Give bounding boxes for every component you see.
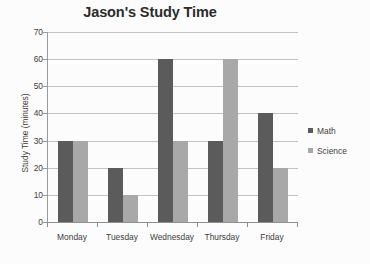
x-tick-mark — [297, 223, 298, 227]
bar-monday-science — [73, 141, 88, 222]
y-tick-label: 70 — [21, 28, 43, 36]
bar-group-container — [48, 32, 298, 222]
x-tick-label-tuesday: Tuesday — [97, 233, 147, 241]
y-tick-label: 10 — [21, 191, 43, 199]
bar-thursday-math — [208, 141, 223, 222]
legend-item-math[interactable]: Math — [308, 123, 368, 138]
bar-chart: Jason's Study Time Study Time (minutes) … — [0, 0, 370, 264]
y-tick-label: 40 — [21, 109, 43, 117]
y-axis-tick-labels: 010203040506070 — [19, 32, 43, 223]
x-tick-label-wednesday: Wednesday — [147, 233, 197, 241]
bar-monday-math — [58, 141, 73, 222]
bar-friday-math — [258, 113, 273, 222]
x-tick-mark — [247, 223, 248, 227]
x-axis-tick-marks — [47, 223, 299, 228]
bar-thursday-science — [223, 59, 238, 222]
chart-title: Jason's Study Time — [0, 4, 300, 20]
x-tick-mark — [47, 223, 48, 227]
y-tick-label: 0 — [21, 218, 43, 226]
legend-item-science[interactable]: Science — [308, 143, 368, 158]
y-tick-label: 20 — [21, 164, 43, 172]
x-axis-tick-labels: MondayTuesdayWednesdayThursdayFriday — [47, 233, 299, 247]
y-tick-label: 60 — [21, 55, 43, 63]
y-tick-label: 50 — [21, 82, 43, 90]
bar-wednesday-math — [158, 59, 173, 222]
x-tick-mark — [97, 223, 98, 227]
legend-label: Science — [317, 146, 347, 156]
legend-label: Math — [317, 126, 336, 136]
x-tick-mark — [147, 223, 148, 227]
chart-legend: MathScience — [308, 123, 368, 163]
legend-swatch-science-icon — [308, 148, 313, 153]
x-tick-label-monday: Monday — [47, 233, 97, 241]
x-tick-label-thursday: Thursday — [197, 233, 247, 241]
bar-tuesday-science — [123, 195, 138, 222]
y-tick-label: 30 — [21, 137, 43, 145]
bar-friday-science — [273, 168, 288, 222]
x-tick-label-friday: Friday — [247, 233, 297, 241]
legend-swatch-math-icon — [308, 128, 313, 133]
bar-wednesday-science — [173, 141, 188, 222]
bar-tuesday-math — [108, 168, 123, 222]
x-tick-mark — [197, 223, 198, 227]
